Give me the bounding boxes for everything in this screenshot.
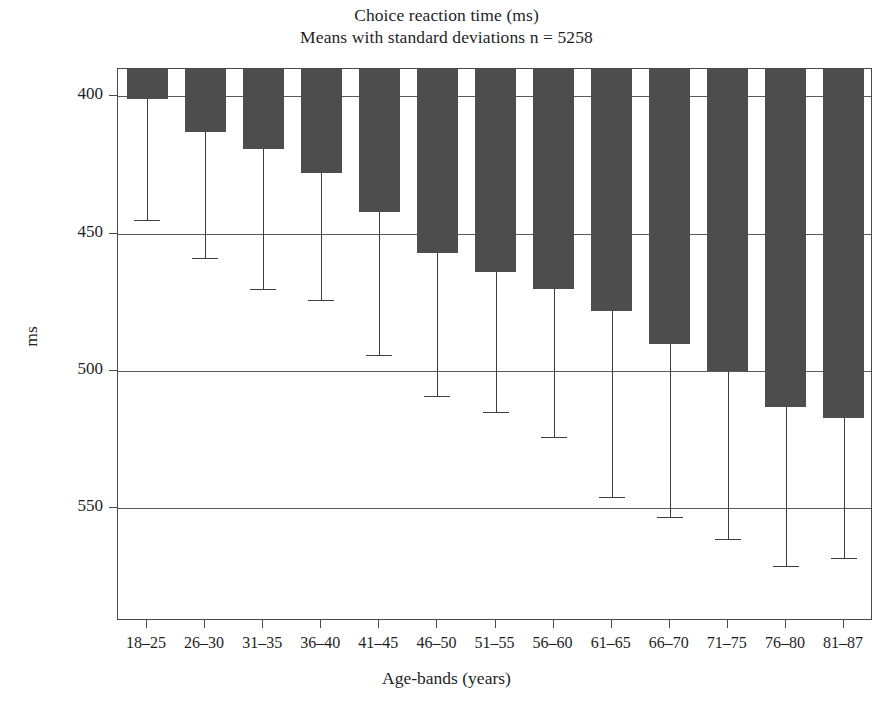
error-bar-line — [379, 212, 380, 355]
y-axis: 400450500550 — [0, 0, 103, 711]
bar — [243, 68, 284, 149]
error-bar-cap — [134, 220, 160, 221]
y-tick-mark — [109, 233, 118, 234]
bar — [533, 68, 574, 289]
error-bar-line — [554, 289, 555, 437]
error-bar-line — [670, 344, 671, 517]
bar — [359, 68, 400, 212]
error-bar-line — [496, 272, 497, 412]
error-bar-cap — [541, 437, 567, 438]
error-bar-cap — [483, 412, 509, 413]
x-tick-mark — [146, 620, 147, 628]
error-bar-line — [786, 407, 787, 566]
bar — [301, 68, 342, 173]
error-bar-cap — [250, 289, 276, 290]
bar — [417, 68, 458, 253]
bar — [185, 68, 226, 132]
x-tick-mark — [378, 620, 379, 628]
x-tick-mark — [553, 620, 554, 628]
y-tick-mark — [109, 95, 118, 96]
error-bar-line — [612, 311, 613, 498]
x-tick-mark — [785, 620, 786, 628]
bar — [127, 68, 168, 99]
error-bar-cap — [192, 258, 218, 259]
bar — [649, 68, 690, 344]
error-bar-cap — [424, 396, 450, 397]
x-tick-mark — [320, 620, 321, 628]
y-tick-label: 500 — [43, 359, 103, 379]
x-tick-mark — [727, 620, 728, 628]
chart-figure: Choice reaction time (ms) Means with sta… — [0, 0, 893, 711]
x-tick-mark — [495, 620, 496, 628]
y-axis-title: ms — [21, 297, 42, 377]
bar — [591, 68, 632, 311]
error-bar-line — [205, 132, 206, 258]
y-tick-label: 400 — [43, 84, 103, 104]
y-tick-label: 550 — [43, 496, 103, 516]
error-bar-line — [437, 253, 438, 396]
x-tick-mark — [611, 620, 612, 628]
y-tick-mark — [109, 507, 118, 508]
bars-layer — [118, 69, 871, 619]
plot-area — [117, 68, 872, 620]
x-tick-mark — [204, 620, 205, 628]
chart-title: Choice reaction time (ms) — [0, 4, 893, 26]
error-bar-cap — [657, 517, 683, 518]
bar — [823, 68, 864, 418]
error-bar-cap — [308, 300, 334, 301]
error-bar-line — [728, 371, 729, 539]
x-tick-mark — [436, 620, 437, 628]
error-bar-line — [263, 149, 264, 289]
y-tick-mark — [109, 370, 118, 371]
x-tick-mark — [669, 620, 670, 628]
error-bar-cap — [715, 539, 741, 540]
x-tick-label: 81–87 — [803, 634, 883, 652]
x-axis-title: Age-bands (years) — [0, 668, 893, 689]
error-bar-cap — [773, 566, 799, 567]
error-bar-line — [147, 99, 148, 220]
error-bar-cap — [831, 558, 857, 559]
bar — [765, 68, 806, 407]
error-bar-cap — [366, 355, 392, 356]
error-bar-line — [844, 418, 845, 558]
chart-title-block: Choice reaction time (ms) Means with sta… — [0, 4, 893, 49]
y-tick-label: 450 — [43, 222, 103, 242]
error-bar-cap — [599, 497, 625, 498]
error-bar-line — [321, 173, 322, 299]
bar — [707, 68, 748, 371]
x-tick-mark — [262, 620, 263, 628]
chart-subtitle: Means with standard deviations n = 5258 — [0, 26, 893, 48]
x-tick-mark — [843, 620, 844, 628]
bar — [475, 68, 516, 272]
